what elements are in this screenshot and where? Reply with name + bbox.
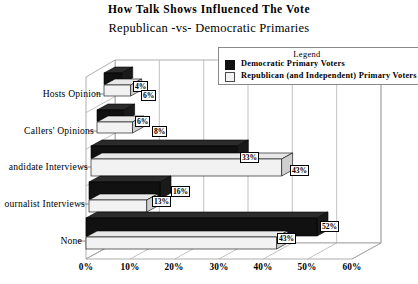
bar-none-rep <box>86 231 288 249</box>
xtick-30: 30% <box>202 262 236 272</box>
xtick-0: 0% <box>69 262 103 272</box>
value-label-none-dem: 52% <box>320 221 339 232</box>
value-label-candidate-interviews-dem: 33% <box>240 152 259 163</box>
category-label-candidate-interviews: andidate Interviews <box>9 161 88 172</box>
xtick-60: 60% <box>335 262 369 272</box>
category-label-callers-opinions: Callers' Opinions <box>24 125 94 136</box>
value-label-none-rep: 43% <box>277 233 296 244</box>
value-label-callers-opinions-dem: 6% <box>135 116 150 127</box>
legend-label-democratic: Democratic Primary Voters <box>241 59 345 68</box>
value-label-journalist-interviews-rep: 13% <box>152 196 171 207</box>
category-label-journalist-interviews: ournalist Interviews <box>5 198 85 209</box>
category-label-none: None <box>60 235 82 246</box>
legend-label-republican: Republican (and Independent) Primary Vot… <box>241 71 417 80</box>
bar-journalist-interviews-rep <box>89 194 158 212</box>
value-label-hosts-opinion-rep: 6% <box>141 90 156 101</box>
legend-swatch-republican <box>225 72 235 82</box>
xtick-50: 50% <box>290 262 324 272</box>
xtick-10: 10% <box>113 262 147 272</box>
value-label-callers-opinions-rep: 8% <box>152 126 167 137</box>
legend-swatch-democratic <box>225 60 235 70</box>
category-label-hosts-opinion: Hosts Opinion <box>43 88 101 99</box>
legend-title: Legend <box>219 49 395 59</box>
xtick-40: 40% <box>246 262 280 272</box>
value-label-candidate-interviews-rep: 43% <box>290 165 309 176</box>
legend: Legend Democratic Primary Voters Republi… <box>218 47 418 85</box>
value-label-journalist-interviews-dem: 16% <box>171 186 190 197</box>
xtick-20: 20% <box>157 262 191 272</box>
bar-candidate-interviews-rep <box>91 153 293 176</box>
chart-container: How Talk Shows Influenced The Vote Repub… <box>0 0 418 284</box>
